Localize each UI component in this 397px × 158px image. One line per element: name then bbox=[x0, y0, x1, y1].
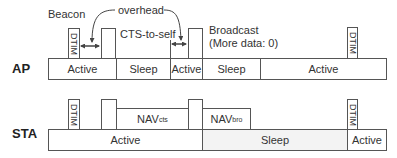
nav-bro-main: NAV bbox=[211, 113, 233, 125]
ap-cts-frame bbox=[101, 28, 116, 59]
sta-segment-label: Sleep bbox=[261, 134, 289, 146]
ap-segment-active-2: Active bbox=[170, 58, 203, 80]
sta-segment-label: Active bbox=[352, 134, 382, 146]
ap-segment-label: Sleep bbox=[129, 63, 157, 75]
nav-cts-sub: cts bbox=[159, 116, 168, 123]
nav-bro-sub: bro bbox=[232, 116, 242, 123]
sta-row-label: STA bbox=[12, 126, 37, 141]
sta-segment-active-2: Active bbox=[347, 129, 387, 151]
sta-dtim-left-text: DTIM bbox=[69, 104, 79, 126]
sta-segment-active-1: Active bbox=[48, 129, 203, 151]
sta-segment-sleep: Sleep bbox=[202, 129, 348, 151]
ap-dtim-beacon-left: DTIM bbox=[68, 28, 80, 59]
sta-nav-cts: NAVcts bbox=[116, 108, 189, 130]
ap-segment-label: Active bbox=[309, 63, 339, 75]
sta-cts-frame bbox=[101, 99, 117, 130]
nav-cts-main: NAV bbox=[137, 113, 159, 125]
sta-nav-bro: NAVbro bbox=[202, 108, 251, 130]
ap-broadcast-frame bbox=[188, 28, 203, 59]
overhead-curve-right-icon bbox=[164, 10, 181, 40]
ap-dtim-right-text: DTIM bbox=[348, 32, 358, 54]
sta-dtim-right-text: DTIM bbox=[348, 104, 358, 126]
sta-segment-label: Active bbox=[111, 134, 141, 146]
ap-segment-label: Sleep bbox=[217, 63, 245, 75]
sta-dtim-right: DTIM bbox=[347, 99, 358, 130]
ap-segment-active-3: Active bbox=[260, 58, 387, 80]
ap-segment-label: Active bbox=[172, 63, 202, 75]
ap-dtim-beacon-right: DTIM bbox=[347, 27, 358, 59]
ap-segment-sleep-1: Sleep bbox=[116, 58, 171, 80]
ap-dtim-left-text: DTIM bbox=[69, 33, 79, 55]
sta-dtim-left: DTIM bbox=[68, 99, 80, 130]
ap-segment-label: Active bbox=[68, 63, 98, 75]
ap-segment-sleep-2: Sleep bbox=[202, 58, 261, 80]
ap-row-label: AP bbox=[12, 61, 30, 76]
ap-segment-active-1: Active bbox=[48, 58, 117, 80]
sta-broadcast-frame bbox=[188, 99, 203, 130]
